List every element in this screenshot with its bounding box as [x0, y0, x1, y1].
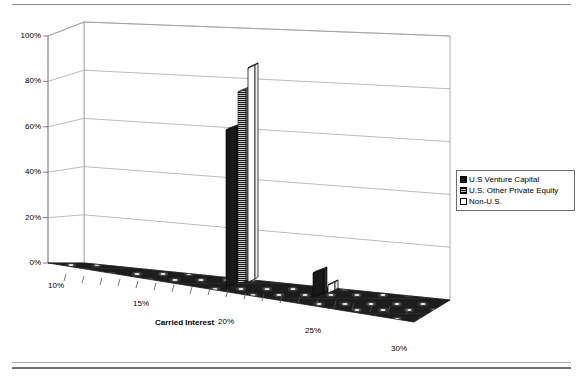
y-tick-label-0: 0%	[9, 258, 41, 268]
x-tick-label-25: 25%	[305, 326, 321, 336]
legend-item-us-other-private-equity: U.S. Other Private Equity	[460, 185, 571, 196]
y-tick-label-20: 20%	[9, 213, 41, 223]
x-tick-label-30: 30%	[391, 344, 407, 354]
y-tick-label-40: 40%	[9, 167, 41, 177]
figure-page: 100% 80% 60% 40% 20% 0% 10% 15% 20% 25% …	[0, 0, 583, 377]
legend-label-non-us: Non-U.S.	[469, 197, 502, 207]
x-tick-label-10: 10%	[48, 281, 64, 291]
x-tick-label-15: 15%	[133, 299, 149, 309]
black-square-icon	[460, 176, 467, 183]
white-square-icon	[460, 198, 467, 205]
bottom-divider-rule-thin	[12, 362, 571, 363]
gray-hatched-square-icon	[460, 187, 467, 194]
y-tick-label-60: 60%	[9, 122, 41, 132]
bar-us-other-private-equity-20pct	[238, 87, 249, 284]
bar-non-us-20pct	[248, 63, 258, 282]
legend-item-us-venture-capital: U.S Venture Capital	[460, 174, 571, 185]
legend-item-non-us: Non-U.S.	[460, 196, 571, 207]
plot-left-wall	[43, 22, 84, 263]
legend-label-us-other-private-equity: U.S. Other Private Equity	[469, 186, 558, 196]
chart-legend: U.S Venture Capital U.S. Other Private E…	[456, 170, 575, 211]
bar-us-venture-capital-25pct	[313, 267, 327, 297]
plot-back-wall	[84, 22, 450, 300]
y-tick-label-80: 80%	[9, 76, 41, 86]
x-tick-label-20: 20%	[218, 317, 234, 327]
bottom-divider-rule-thick	[12, 367, 571, 369]
x-axis-title: Carried Interest	[155, 318, 214, 327]
legend-label-us-venture-capital: U.S Venture Capital	[469, 175, 539, 185]
y-tick-label-100: 100%	[9, 31, 41, 41]
